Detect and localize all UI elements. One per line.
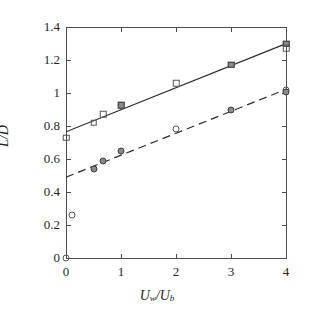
y-tick-label: 1 xyxy=(20,85,60,101)
fit-line-circle xyxy=(66,89,286,177)
data-point-circle xyxy=(63,255,70,262)
x-tick-label: 1 xyxy=(118,264,125,280)
data-point-square xyxy=(63,134,70,141)
y-axis-label: L/D xyxy=(0,125,12,147)
data-point-square xyxy=(283,45,290,52)
y-tick-label: 0.2 xyxy=(20,217,60,233)
y-tick-label: 0.6 xyxy=(20,151,60,167)
data-point-circle xyxy=(173,126,180,133)
data-point-square xyxy=(100,111,107,118)
y-axis-label-text: L/D xyxy=(0,125,11,147)
x-axis-label: Uw/Ub xyxy=(0,288,314,304)
data-point-circle xyxy=(283,89,290,96)
y-tick-label: 0.8 xyxy=(20,118,60,134)
data-point-circle xyxy=(90,165,97,172)
x-tick-label: 4 xyxy=(283,264,290,280)
x-axis-label-u: U xyxy=(140,288,150,303)
x-axis-label-slash-u: /U xyxy=(156,288,170,303)
data-point-square xyxy=(90,119,97,126)
chart-figure: 00.20.40.60.811.21.4 01234 L/D Uw/Ub xyxy=(0,0,314,318)
y-tick-label: 0.4 xyxy=(20,184,60,200)
data-point-square xyxy=(173,80,180,87)
x-tick-label: 2 xyxy=(173,264,180,280)
fit-line-square xyxy=(66,44,286,132)
data-point-circle xyxy=(100,157,107,164)
x-axis-label-sub-b: b xyxy=(170,293,175,303)
data-point-square xyxy=(228,62,235,69)
data-point-circle xyxy=(228,106,235,113)
y-tick-label: 1.4 xyxy=(20,19,60,35)
data-point-square xyxy=(118,102,125,109)
y-tick-label: 0 xyxy=(20,250,60,266)
y-tick-label: 1.2 xyxy=(20,52,60,68)
x-tick-label: 0 xyxy=(63,264,70,280)
x-tick-label: 3 xyxy=(228,264,235,280)
data-point-circle xyxy=(118,147,125,154)
plot-area xyxy=(66,27,287,259)
fit-lines xyxy=(66,27,287,259)
data-point-circle xyxy=(68,212,75,219)
